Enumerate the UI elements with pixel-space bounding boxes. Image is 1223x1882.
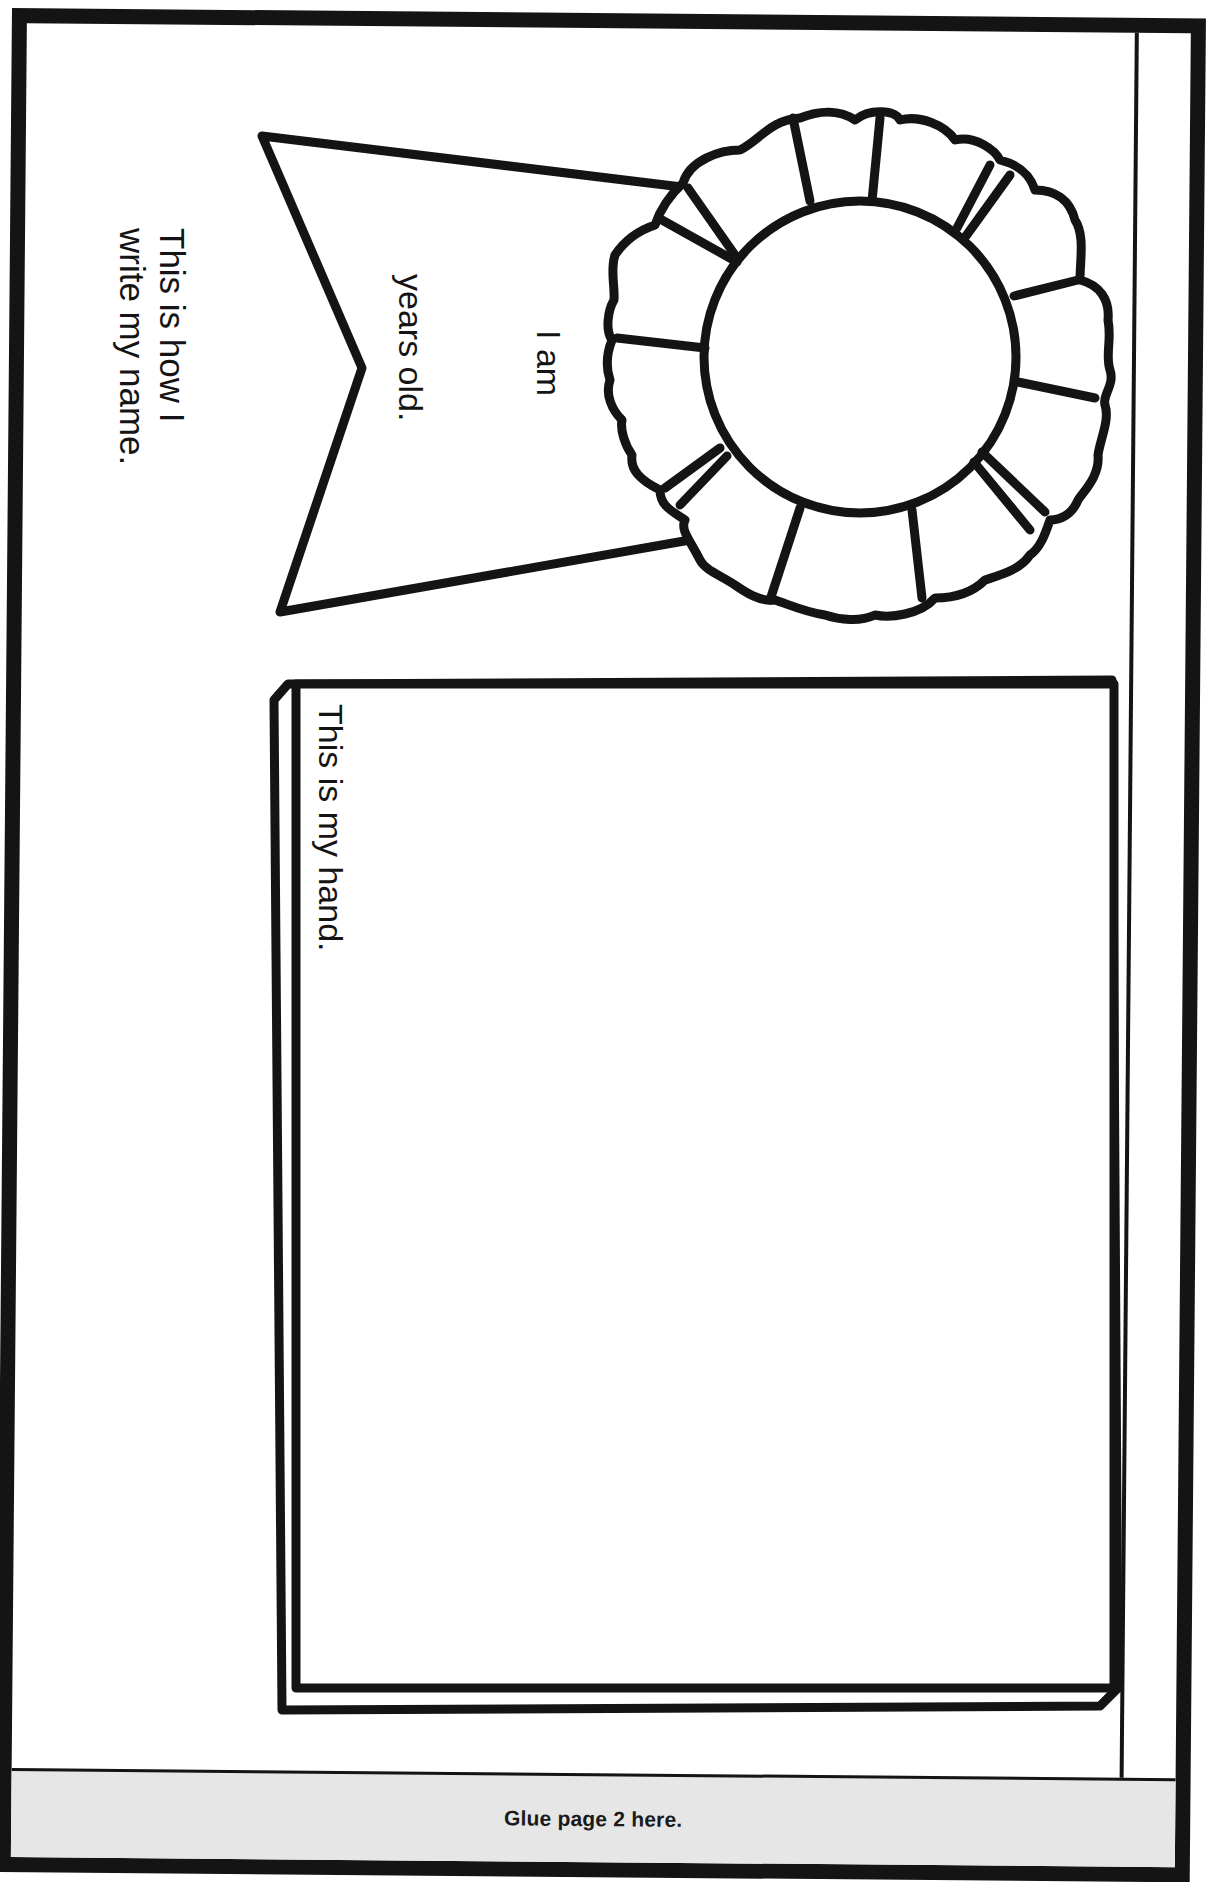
name-prompt: This is how I write my name. <box>112 228 192 465</box>
name-prompt-line1: This is how I <box>152 228 192 465</box>
age-prompt-line1: I am <box>532 330 566 396</box>
hand-drawing-box <box>274 680 1118 1710</box>
name-prompt-line2: write my name. <box>112 228 152 465</box>
hand-box-label: This is my hand. <box>314 704 348 952</box>
age-prompt-line2: years old. <box>394 274 428 421</box>
